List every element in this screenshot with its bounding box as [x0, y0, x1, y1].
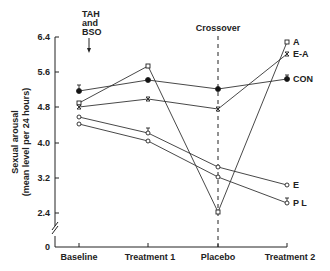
- series-ea-markers: [77, 52, 289, 111]
- legend-pl: P L: [293, 198, 307, 208]
- x-label-treatment-2: Treatment 2: [265, 252, 316, 262]
- surgery-annotation: TAH and BSO: [82, 9, 102, 53]
- svg-text:BSO: BSO: [82, 27, 102, 37]
- x-label-baseline: Baseline: [60, 252, 97, 262]
- y-tick-0: 0: [45, 242, 50, 252]
- chart: Sexual arousal (mean level per 24 hours)…: [0, 0, 330, 271]
- y-tick-5.6: 5.6: [37, 67, 50, 77]
- down-arrow-icon: [87, 48, 91, 53]
- series-a-line: [79, 42, 287, 212]
- x-axis: [55, 243, 287, 247]
- markers: [77, 40, 290, 214]
- x-label-treatment-1: Treatment 1: [125, 252, 176, 262]
- series-e-markers: [77, 115, 289, 187]
- legend-e: E: [293, 180, 299, 190]
- legend-a: A: [293, 37, 300, 47]
- series-pl-markers: [77, 122, 289, 205]
- crossover-label: Crossover: [196, 23, 241, 33]
- series-a-markers: [77, 40, 289, 214]
- y-axis-label-line2: (mean level per 24 hours): [21, 88, 31, 197]
- x-label-placebo: Placebo: [201, 252, 236, 262]
- y-axis-label-line1: Sexual arousal: [10, 110, 20, 174]
- y-tick-4.0: 4.0: [37, 138, 50, 148]
- series-lines: [79, 42, 287, 212]
- series-e-line: [79, 117, 287, 185]
- y-tick-6.4: 6.4: [37, 32, 50, 42]
- y-tick-4.8: 4.8: [37, 102, 50, 112]
- y-tick-2.4: 2.4: [37, 208, 50, 218]
- legend-con: CON: [293, 74, 313, 84]
- y-tick-3.2: 3.2: [37, 173, 50, 183]
- legend-ea: E-A: [293, 49, 309, 59]
- series-ea-line: [79, 54, 287, 109]
- series-con-line: [79, 79, 287, 91]
- series-pl-line: [79, 124, 287, 203]
- y-axis: [52, 37, 59, 247]
